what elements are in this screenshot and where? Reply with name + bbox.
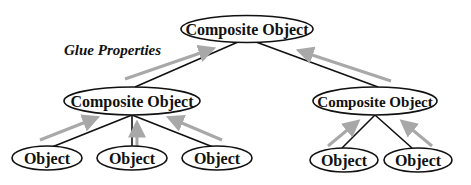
glue-arrow-obj1-to-left [40, 118, 96, 140]
node-right-composite: Composite Object [313, 87, 437, 115]
composite-object-diagram: Glue Properties Composite Object Composi… [0, 0, 471, 185]
node-left-composite: Composite Object [64, 87, 200, 115]
node-label: Composite Object [185, 21, 309, 39]
node-label: Object [194, 150, 241, 168]
node-label: Composite Object [70, 93, 194, 111]
node-right-object-2: Object [384, 148, 452, 172]
node-label: Object [109, 150, 156, 168]
node-label: Object [395, 152, 442, 170]
node-left-object-2: Object [97, 146, 167, 170]
node-label: Composite Object [317, 94, 432, 110]
node-left-object-3: Object [182, 146, 252, 170]
glue-arrow-obj3-to-left [170, 118, 222, 140]
edge-right-obj2 [375, 115, 412, 148]
glue-properties-label: Glue Properties [64, 42, 161, 58]
node-left-object-1: Object [12, 146, 82, 170]
glue-arrow-right-to-root [300, 51, 391, 81]
node-label: Object [24, 150, 71, 168]
node-right-object-1: Object [310, 148, 378, 172]
glue-arrow-robj2-to-right [403, 122, 432, 146]
diagram-canvas: Glue Properties Composite Object Composi… [0, 0, 471, 185]
edge-root-right [256, 42, 378, 87]
node-label: Object [321, 152, 368, 170]
node-root: Composite Object [181, 16, 313, 43]
glue-arrow-robj1-to-right [328, 122, 357, 146]
